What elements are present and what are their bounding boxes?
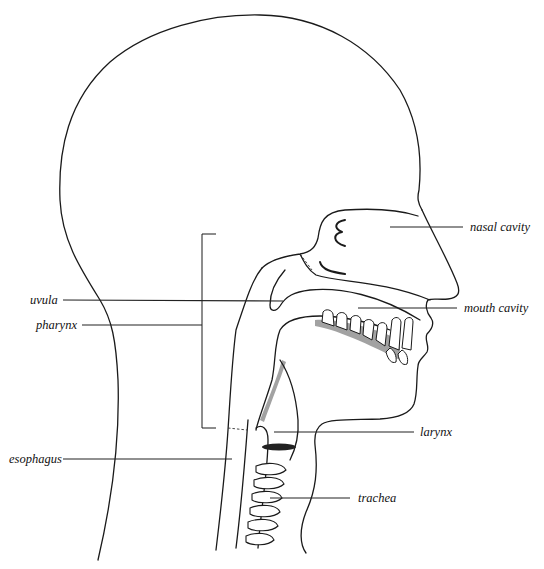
glottis	[262, 444, 296, 451]
esophagus-wall	[236, 420, 248, 548]
pharynx-dashed-line	[228, 428, 247, 430]
soft-palate	[270, 270, 420, 320]
head-outline	[60, 15, 422, 560]
label-uvula: uvula	[30, 293, 58, 307]
nose-outline	[422, 210, 459, 300]
turbinate-upper	[335, 220, 345, 246]
teeth	[315, 310, 413, 365]
leader-uvula	[63, 300, 283, 301]
turbinate-lower	[320, 262, 345, 274]
label-mouth-cavity: mouth cavity	[464, 301, 529, 315]
tongue-shading	[260, 360, 286, 422]
label-larynx: larynx	[420, 425, 452, 439]
vocal-tract-diagram: nasal cavity mouth cavity uvula pharynx …	[0, 0, 544, 569]
pharynx-bracket	[202, 234, 216, 428]
label-nasal-cavity: nasal cavity	[470, 220, 531, 234]
label-pharynx: pharynx	[35, 318, 77, 332]
nasal-cavity-shape	[262, 209, 430, 300]
label-esophagus: esophagus	[9, 452, 62, 466]
label-trachea: trachea	[358, 491, 396, 505]
